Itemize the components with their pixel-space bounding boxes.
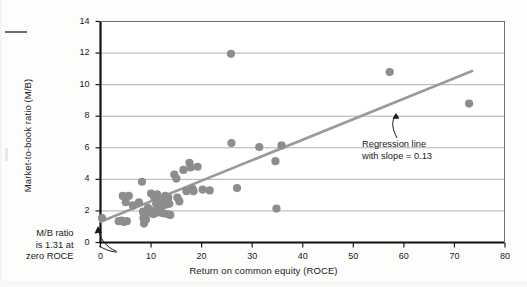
data-point bbox=[386, 68, 394, 76]
regression-annotation-line2: with slope = 0.13 bbox=[362, 151, 432, 163]
data-point bbox=[123, 217, 131, 225]
origin-annotation: M/B ratio is 1.31 at zero ROCE bbox=[26, 228, 74, 263]
y-tick-12: 12 bbox=[68, 47, 90, 57]
x-tick-70: 70 bbox=[441, 251, 467, 261]
data-point bbox=[135, 198, 143, 206]
origin-annotation-line3: zero ROCE bbox=[26, 251, 74, 263]
x-axis-title: Return on common equity (ROCE) bbox=[0, 265, 527, 276]
data-point bbox=[172, 174, 180, 182]
data-point bbox=[193, 163, 201, 171]
x-tick-10: 10 bbox=[138, 251, 164, 261]
data-point bbox=[227, 139, 235, 147]
data-point bbox=[142, 216, 150, 224]
x-tick-30: 30 bbox=[239, 251, 265, 261]
origin-annotation-line2: is 1.31 at bbox=[26, 240, 74, 252]
figure-root: Return on common equity (ROCE) Market-to… bbox=[0, 0, 527, 287]
data-point bbox=[153, 190, 161, 198]
data-point bbox=[138, 178, 146, 186]
origin-annotation-line1: M/B ratio bbox=[26, 228, 74, 240]
y-tick-4: 4 bbox=[68, 173, 90, 183]
regression-annotation: Regression line with slope = 0.13 bbox=[362, 139, 432, 162]
data-point bbox=[277, 141, 285, 149]
data-point bbox=[179, 166, 187, 174]
data-point bbox=[206, 186, 214, 194]
data-point bbox=[271, 157, 279, 165]
y-tick-8: 8 bbox=[68, 110, 90, 120]
data-point bbox=[186, 163, 194, 171]
x-tick-50: 50 bbox=[340, 251, 366, 261]
data-point bbox=[165, 200, 173, 208]
data-point bbox=[199, 186, 207, 194]
data-point bbox=[227, 50, 235, 58]
x-tick-40: 40 bbox=[290, 251, 316, 261]
y-tick-14: 14 bbox=[68, 16, 90, 26]
data-point bbox=[175, 197, 183, 205]
data-point bbox=[189, 187, 197, 195]
y-tick-2: 2 bbox=[68, 205, 90, 215]
y-tick-10: 10 bbox=[68, 79, 90, 89]
x-tick-20: 20 bbox=[189, 251, 215, 261]
x-tick-80: 80 bbox=[492, 251, 518, 261]
regression-annotation-line1: Regression line bbox=[362, 139, 432, 151]
data-point bbox=[255, 143, 263, 151]
x-tick-0: 0 bbox=[88, 251, 114, 261]
data-point bbox=[272, 204, 280, 212]
x-tick-60: 60 bbox=[391, 251, 417, 261]
y-axis-title: Market-to-book ratio (M/B) bbox=[22, 51, 33, 221]
data-point bbox=[465, 99, 473, 107]
data-point bbox=[125, 192, 133, 200]
y-tick-6: 6 bbox=[68, 142, 90, 152]
data-point bbox=[166, 211, 174, 219]
data-point bbox=[233, 184, 241, 192]
data-point bbox=[98, 214, 106, 222]
